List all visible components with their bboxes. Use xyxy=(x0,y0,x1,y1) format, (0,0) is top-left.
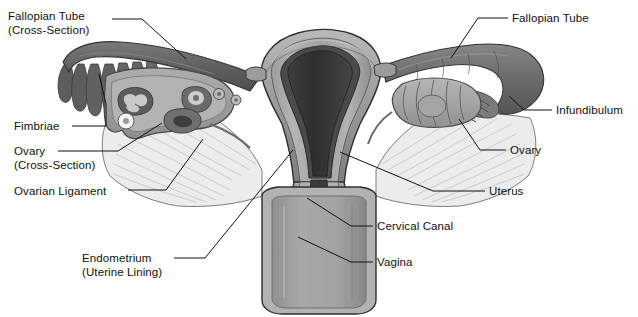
label-line-1: Infundibulum xyxy=(556,104,623,116)
ovary-right xyxy=(392,78,481,127)
ovarian-ligament-right xyxy=(368,112,392,144)
uterus xyxy=(246,29,396,184)
follicle-corpus-luteum xyxy=(118,88,153,116)
label-line-1: Ovary xyxy=(14,145,45,157)
label-fimbriae: Fimbriae xyxy=(14,120,60,134)
label-line-2: (Cross-Section) xyxy=(14,159,95,173)
label-line-2: (Uterine Lining) xyxy=(82,266,162,280)
label-line-1: Cervical Canal xyxy=(377,220,453,232)
diagram-canvas: Fallopian Tube(Cross-Section)FimbriaeOva… xyxy=(0,0,638,317)
label-line-2: (Cross-Section) xyxy=(8,24,89,38)
follicle-ruptured xyxy=(164,109,201,134)
label-endometrium: Endometrium(Uterine Lining) xyxy=(82,252,162,279)
label-vagina: Vagina xyxy=(377,256,413,270)
label-line-1: Endometrium xyxy=(82,252,152,264)
label-infundibulum: Infundibulum xyxy=(556,104,623,118)
label-line-1: Fallopian Tube xyxy=(8,10,85,22)
label-fallopian-tube-cross-section: Fallopian Tube(Cross-Section) xyxy=(8,10,89,37)
label-line-1: Fimbriae xyxy=(14,120,60,132)
label-fallopian-tube: Fallopian Tube xyxy=(512,12,589,26)
label-line-1: Uterus xyxy=(489,185,523,197)
label-cervical-canal: Cervical Canal xyxy=(377,220,453,234)
label-ovarian-ligament: Ovarian Ligament xyxy=(14,185,106,199)
label-ovary-cross-section: Ovary(Cross-Section) xyxy=(14,145,95,172)
ovum xyxy=(118,113,134,129)
label-line-1: Ovarian Ligament xyxy=(14,185,106,197)
label-uterus: Uterus xyxy=(489,185,523,199)
label-line-1: Fallopian Tube xyxy=(512,12,589,24)
label-line-1: Ovary xyxy=(510,144,541,156)
label-line-1: Vagina xyxy=(377,256,413,268)
label-ovary: Ovary xyxy=(510,144,541,158)
